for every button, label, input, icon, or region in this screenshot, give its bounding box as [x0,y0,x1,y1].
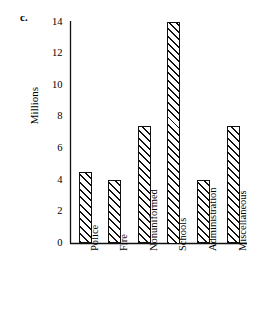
x-tick-label: Police [90,224,101,250]
x-tick-label: Miscellaneous [238,190,249,251]
y-tick-label: 0 [47,238,63,249]
y-tick-label: 12 [47,48,63,59]
y-tick-label: 4 [47,175,63,186]
y-tick-label: 2 [47,206,63,217]
y-tick-label: 6 [47,143,63,154]
x-tick-label: Schools [178,217,189,250]
y-tick-label: 10 [47,80,63,91]
x-tick-label: Nonuniformed [149,189,160,251]
y-tick-label: 14 [47,17,63,28]
bar [167,22,180,244]
bar-chart-figure: c. Millions 02468101214 PoliceFireNonuni… [0,0,255,332]
x-tick-label: Fire [119,234,130,251]
y-tick-label: 8 [47,111,63,122]
plot-area [0,0,255,332]
x-tick-label: Administration [208,187,219,251]
